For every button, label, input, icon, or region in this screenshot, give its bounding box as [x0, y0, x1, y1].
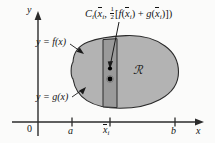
upper-curve-label: y = f(x)	[36, 37, 66, 47]
y-axis-label: y	[27, 5, 31, 15]
centroid-g-arg-base: x	[155, 9, 160, 20]
figure-graphics	[0, 0, 215, 143]
figure-container: Ci(xi, 12[f(xi) + g(xi)]) y x 0 y = f(x)…	[0, 0, 215, 143]
fraction-numerator: 1	[110, 6, 114, 13]
centroid-dot-lower	[108, 77, 113, 82]
origin-label: 0	[27, 124, 32, 134]
centroid-comma: ,	[104, 8, 109, 19]
y-axis-arrowhead	[35, 11, 42, 20]
lower-curve-lhs: y =	[36, 91, 52, 102]
centroid-plus: +	[135, 8, 146, 19]
tick-label-b: b	[171, 126, 176, 136]
one-half-fraction: 12	[110, 6, 114, 21]
tick-xbar-base: x	[103, 125, 107, 135]
centroid-f-arg-base: x	[125, 9, 130, 20]
fraction-denominator: 2	[110, 13, 114, 21]
centroid-arg1-base: x	[98, 9, 103, 20]
upper-curve-arg: (x)	[55, 36, 66, 47]
region-shaded-area	[71, 36, 178, 109]
centroid-dot-upper	[108, 66, 112, 70]
upper-curve-lhs: y =	[36, 36, 52, 47]
centroid-formula-label: Ci(xi, 12[f(xi) + g(xi)])	[85, 6, 172, 21]
tick-label-a: a	[68, 126, 73, 136]
tick-label-xbar-i: xi	[103, 125, 109, 137]
centroid-close-paren: )	[169, 8, 173, 19]
tick-xbar-subscript: i	[107, 129, 109, 136]
lower-curve-label: y = g(x)	[36, 92, 68, 102]
representative-rectangle-strip	[103, 39, 117, 108]
centroid-point-name: C	[85, 8, 92, 19]
x-axis-label: x	[196, 126, 200, 136]
region-label: ℛ	[133, 64, 143, 76]
lower-curve-arg: (x)	[57, 91, 68, 102]
